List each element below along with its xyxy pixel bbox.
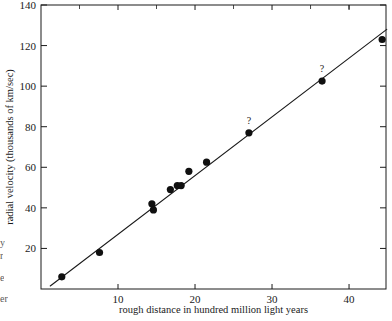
data-point — [178, 182, 185, 189]
data-point — [318, 77, 325, 84]
x-axis-ticks — [80, 5, 350, 289]
regression-line — [50, 29, 387, 286]
data-point — [185, 168, 192, 175]
y-tick-label: 140 — [20, 0, 37, 11]
margin-text-fragment: e — [0, 272, 4, 283]
data-point — [150, 206, 157, 213]
y-tick-label: 60 — [25, 161, 37, 173]
plot-canvas: 10203040 20406080100120140 ?? rough dist… — [0, 0, 392, 321]
data-point — [96, 249, 103, 256]
data-point — [167, 186, 174, 193]
margin-text-fragment: r — [0, 250, 3, 261]
data-point — [245, 129, 252, 136]
scatter-plot-figure: 10203040 20406080100120140 ?? rough dist… — [0, 0, 392, 321]
margin-text-fragment: y — [0, 237, 5, 248]
y-tick-label: 20 — [25, 242, 37, 254]
y-tick-label: 120 — [20, 40, 37, 52]
point-annotations: ?? — [247, 63, 325, 126]
y-tick-label: 100 — [20, 80, 37, 92]
data-point — [58, 273, 65, 280]
data-point — [379, 36, 386, 43]
x-axis-title: rough distance in hundred million light … — [119, 304, 308, 315]
y-tick-label: 40 — [25, 202, 37, 214]
plot-frame — [41, 5, 386, 289]
data-point-series — [58, 36, 386, 281]
y-axis-tick-labels: 20406080100120140 — [20, 0, 37, 254]
axes-box — [41, 5, 386, 289]
margin-text-fragment: er — [0, 293, 8, 304]
data-point — [148, 200, 155, 207]
y-tick-label: 80 — [25, 121, 37, 133]
data-point — [203, 159, 210, 166]
data-point-annotation: ? — [320, 63, 325, 74]
data-point-annotation: ? — [247, 115, 252, 126]
x-tick-label: 40 — [344, 293, 356, 305]
y-axis-title: radial velocity (thousands of km/sec) — [4, 69, 16, 225]
y-axis-ticks — [41, 5, 386, 248]
